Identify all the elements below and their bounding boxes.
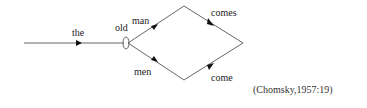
arrow-icon bbox=[76, 40, 82, 46]
arrow-icon bbox=[151, 56, 158, 62]
arrow-icon bbox=[207, 18, 214, 26]
label-old: old bbox=[115, 22, 128, 33]
label-come: come bbox=[211, 72, 233, 83]
label-the: the bbox=[72, 27, 85, 38]
label-man: man bbox=[132, 15, 149, 26]
label-men: men bbox=[134, 66, 151, 77]
citation: (Chomsky,1957:19) bbox=[253, 84, 333, 95]
arrow-icon bbox=[207, 63, 214, 70]
label-comes: comes bbox=[211, 7, 237, 18]
arrow-icon bbox=[151, 24, 158, 30]
